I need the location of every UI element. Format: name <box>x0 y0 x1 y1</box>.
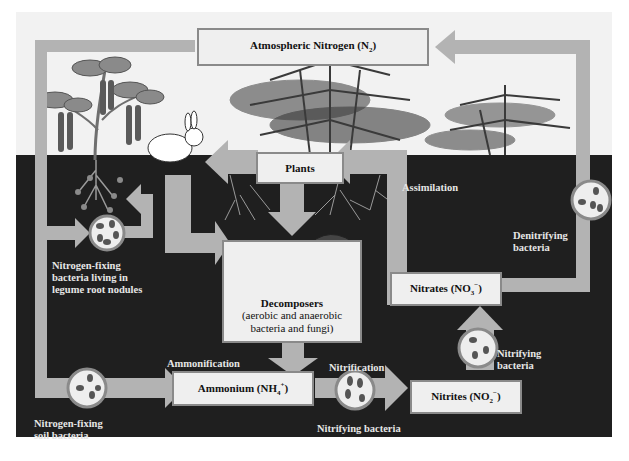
nitrifying-bacteria-right-label: Nitrifying bacteria <box>497 348 541 372</box>
atmospheric-nitrogen-box: Atmospheric Nitrogen (N2) <box>197 28 429 66</box>
bacteria-circle-soil <box>68 369 106 407</box>
bacteria-circle-legume <box>90 216 124 250</box>
nitrifying-bacteria-bottom-label: Nitrifying bacteria <box>317 423 401 435</box>
decomposers-line1: (aerobic and anaerobic <box>242 309 342 322</box>
bacteria-circle-nitrifying-right <box>459 329 497 367</box>
decomposers-line2: bacteria and fungi) <box>242 322 342 335</box>
nitrates-box: Nitrates (NO3−) <box>390 272 502 306</box>
nitrification-label: Nitrification <box>329 362 384 374</box>
atmospheric-nitrogen-label: Atmospheric Nitrogen (N2) <box>250 39 376 54</box>
rabbit-illustration <box>148 111 203 162</box>
bacteria-circle-denitrifying <box>572 181 610 219</box>
ammonium-box: Ammonium (NH4+) <box>172 371 314 406</box>
nitrogen-cycle-diagram: Atmospheric Nitrogen (N2) Plants Decompo… <box>0 0 629 461</box>
decomposers-title: Decomposers <box>242 297 342 309</box>
bacteria-circle-nitrification <box>336 371 374 409</box>
ammonification-label: Ammonification <box>167 358 240 370</box>
ammonium-label: Ammonium (NH4+) <box>198 381 288 397</box>
denitrifying-bacteria-label: Denitrifying bacteria <box>513 230 568 254</box>
plants-box: Plants <box>256 152 344 184</box>
legume-plant-illustration <box>37 57 164 213</box>
assimilation-label: Assimilation <box>402 182 458 194</box>
plants-label: Plants <box>285 162 314 174</box>
nitrates-label: Nitrates (NO3−) <box>410 281 482 297</box>
soil-nitrogen-fixing-label: Nitrogen-fixing soil bacteria <box>34 418 103 442</box>
decomposers-box: Decomposers (aerobic and anaerobic bacte… <box>222 240 362 343</box>
nitrites-box: Nitrites (NO2−) <box>410 380 522 414</box>
nitrites-label: Nitrites (NO2−) <box>431 389 501 405</box>
legume-nitrogen-fixing-label: Nitrogen-fixing bacteria living in legum… <box>52 260 142 296</box>
